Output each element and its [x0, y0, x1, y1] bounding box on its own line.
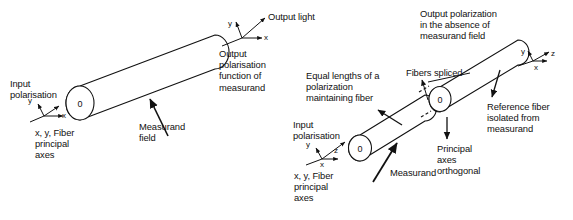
- right-reference-fiber-endcap-label: 0: [437, 95, 442, 105]
- left-output-axis-x-label: x: [264, 34, 268, 42]
- right-input-axis-y-label: y: [306, 141, 310, 149]
- left-output-polarisation-note: Output polarisation function of measuran…: [219, 48, 266, 93]
- output-light-label: Output light: [268, 11, 315, 22]
- right-input-axis-x-label: x: [320, 161, 324, 169]
- right-input-axis-triad: [306, 142, 345, 165]
- left-fiber-endcap-label: 0: [77, 99, 82, 109]
- left-principal-axes-note: x, y, Fiber principal axes: [35, 127, 74, 161]
- left-output-axis-y-label: y: [228, 20, 232, 28]
- left-axis-y-label: y: [28, 97, 32, 105]
- left-input-axis-triad: [30, 104, 63, 122]
- right-input-polarisation-label: Input polarisation: [293, 119, 340, 141]
- right-principal-axes-note: x, y, Fiber principal axes: [294, 170, 333, 204]
- right-output-axis-z-label: z: [551, 50, 555, 58]
- right-input-axis-z-label: z: [334, 147, 338, 155]
- right-measurand-label: Measurand: [390, 167, 436, 178]
- reference-fiber-note: Reference fiber isolated from measurand: [487, 101, 550, 135]
- right-output-polarization-note: Output polarization in the absence of me…: [420, 8, 497, 42]
- left-input-polarisation-label: Input polarisation: [10, 78, 57, 100]
- left-axis-x-label: x: [62, 112, 66, 120]
- right-output-axis-y-label: y: [521, 48, 525, 56]
- left-fiber-body: 0: [66, 35, 229, 120]
- equal-lengths-note: Equal lengths of a polarization maintain…: [306, 70, 379, 104]
- principal-axes-orthogonal-note: Principal axes orthogonal: [437, 143, 480, 177]
- left-measurand-field-label: Measurand field: [139, 121, 185, 143]
- fiber-optic-sensor-figure: 0 0 0: [0, 0, 573, 220]
- right-sensing-fiber-endcap-label: 0: [357, 144, 362, 154]
- right-output-axis-x-label: x: [534, 64, 538, 72]
- fibers-spliced-label: Fibers spliced: [406, 67, 462, 78]
